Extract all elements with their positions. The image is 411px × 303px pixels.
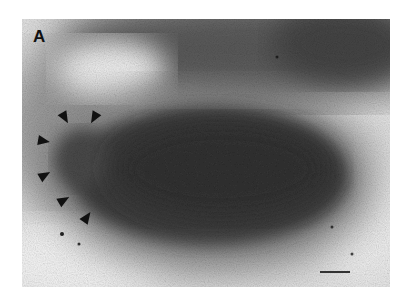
panel-label: A — [33, 28, 45, 45]
micrograph-panel: A — [22, 19, 390, 287]
scale-bar — [320, 271, 350, 273]
micrograph-image — [22, 19, 390, 287]
